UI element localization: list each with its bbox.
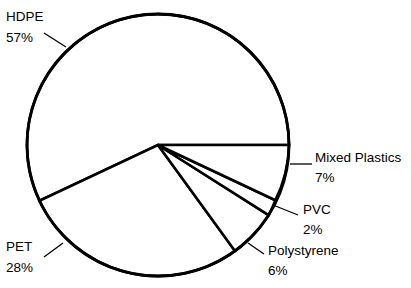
slice-label-hdpe-name: HDPE <box>6 9 44 24</box>
slice-label-pvc-name: PVC <box>303 202 331 217</box>
pie-chart-canvas: HDPE 57% Mixed Plastics 7% PVC 2% Polyst… <box>0 0 411 288</box>
leader-line-pvc <box>273 205 298 215</box>
leader-line-hdpe <box>44 33 66 47</box>
slice-label-mixed-plastics-percent: 7% <box>315 170 335 185</box>
pie-chart: HDPE 57% Mixed Plastics 7% PVC 2% Polyst… <box>0 0 411 288</box>
leader-line-pet <box>44 243 63 257</box>
slice-label-polystyrene-percent: 6% <box>268 263 288 278</box>
slice-label-polystyrene-name: Polystyrene <box>268 243 339 258</box>
slice-label-mixed-plastics-name: Mixed Plastics <box>315 150 402 165</box>
slice-label-pet-percent: 28% <box>6 260 33 275</box>
slice-label-pvc-percent: 2% <box>303 222 323 237</box>
leader-line-polystyrene <box>248 243 264 254</box>
slice-label-hdpe-percent: 57% <box>6 30 33 45</box>
slice-label-pet-name: PET <box>6 239 32 254</box>
